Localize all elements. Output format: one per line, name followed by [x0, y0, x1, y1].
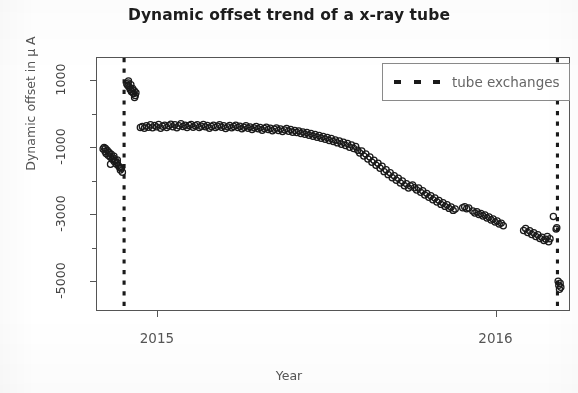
chart-canvas: Dynamic offset trend of a x-ray tube Dyn… — [0, 0, 578, 393]
legend-item-label: tube exchanges — [452, 74, 560, 90]
y-tick-label-1: -1000 — [53, 117, 68, 177]
x-tick-label-0: 2015 — [122, 330, 192, 346]
chart-legend: tube exchanges — [382, 63, 570, 101]
y-tick-label-0: 1000 — [53, 50, 68, 110]
data-point-group — [100, 78, 564, 292]
y-tick-label-3: -5000 — [53, 250, 68, 310]
y-tick-label-2: -3000 — [53, 184, 68, 244]
page-title: Dynamic offset trend of a x-ray tube — [0, 6, 578, 24]
x-axis-title: Year — [0, 368, 578, 383]
x-tick-label-1: 2016 — [461, 330, 531, 346]
data-point — [550, 213, 556, 219]
dotted-line-icon — [394, 75, 440, 89]
y-axis-title: Dynamic offset in μ A — [23, 4, 38, 204]
